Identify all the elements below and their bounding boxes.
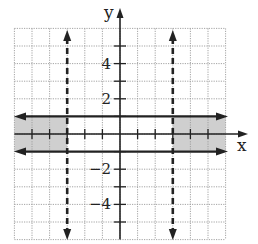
arrow-up-icon bbox=[63, 30, 71, 41]
y-axis-arrow-icon bbox=[117, 8, 124, 18]
coordinate-graph: x y 42−2−4 bbox=[0, 0, 258, 244]
y-tick-label: −4 bbox=[89, 195, 111, 213]
y-tick-label: 2 bbox=[101, 90, 111, 108]
axis-labels: x y 42−2−4 bbox=[89, 2, 247, 213]
arrow-down-icon bbox=[63, 229, 71, 240]
y-tick-label: −2 bbox=[89, 160, 111, 178]
x-axis-label: x bbox=[237, 135, 247, 155]
arrow-down-icon bbox=[169, 229, 177, 240]
y-axis-label: y bbox=[103, 2, 114, 22]
arrow-up-icon bbox=[169, 30, 177, 41]
y-tick-label: 4 bbox=[101, 55, 111, 73]
